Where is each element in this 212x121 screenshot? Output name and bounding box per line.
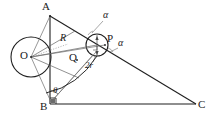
construction-lines-from-o: [31, 16, 105, 102]
vertex-a-dot: [49, 15, 51, 17]
line-o-to-b: [31, 57, 51, 102]
leader-alpha-upper: [92, 21, 103, 33]
point-label-q: Q: [69, 52, 77, 63]
point-label-p: P: [107, 33, 113, 44]
measure-label-diameter-2r: 2r: [85, 61, 93, 70]
measure-label-alpha-lower: α: [118, 38, 123, 48]
geometry-figure: A B C O P Q R 2r α α θ: [0, 0, 212, 121]
point-o-dot: [30, 56, 32, 58]
measure-label-alpha-upper: α: [103, 10, 108, 20]
vertex-label-b: B: [40, 101, 47, 112]
diameter-2r-arrow-bottom: [95, 51, 98, 55]
measure-label-radius-r: R: [60, 33, 66, 43]
vertex-label-a: A: [42, 1, 50, 12]
diameter-2r-arrow-top: [95, 36, 98, 40]
vertex-label-c: C: [198, 99, 205, 110]
point-label-o: O: [20, 50, 28, 61]
line-o-to-a: [31, 16, 50, 57]
alpha-leader-lines: [92, 21, 118, 52]
measure-label-theta: θ: [53, 86, 57, 95]
point-p-dot: [104, 44, 106, 46]
